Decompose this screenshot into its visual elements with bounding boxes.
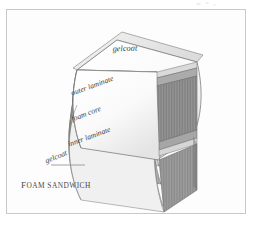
scan-speckle [196, 3, 201, 5]
label-gelcoat-top: gelcoat [112, 44, 138, 54]
label-gelcoat-bottom: gelcoat [44, 148, 69, 165]
right-end-face [157, 62, 197, 156]
caption-rest: OAM SANDWICH [26, 181, 90, 190]
figure-container: gelcoat outer laminate foam core inner l… [0, 0, 258, 225]
scan-speckle [213, 4, 216, 6]
scan-speckle [205, 2, 209, 4]
figure-caption: FOAM SANDWICH [21, 180, 91, 190]
figure-frame: gelcoat outer laminate foam core inner l… [6, 9, 246, 214]
right-edge-highlight [193, 136, 197, 190]
